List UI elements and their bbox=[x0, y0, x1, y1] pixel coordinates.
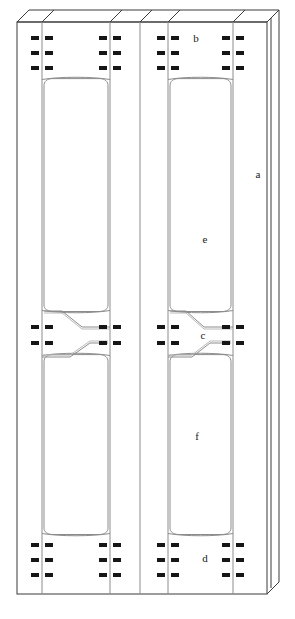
top-face-rib-3 bbox=[140, 10, 152, 22]
connector-mark bbox=[45, 66, 53, 70]
connector-mark bbox=[171, 543, 179, 547]
connector-mark bbox=[236, 573, 244, 577]
connector-mark bbox=[236, 66, 244, 70]
connector-mark bbox=[45, 325, 53, 329]
callout-label-e: e bbox=[203, 233, 208, 245]
connector-mark bbox=[113, 51, 121, 55]
connector-mark bbox=[236, 325, 244, 329]
connector-mark bbox=[99, 573, 107, 577]
connector-mark bbox=[45, 573, 53, 577]
connector-mark bbox=[236, 558, 244, 562]
connector-mark bbox=[31, 36, 39, 40]
connector-mark bbox=[99, 66, 107, 70]
connector-mark bbox=[31, 325, 39, 329]
front-face-outline bbox=[17, 22, 267, 594]
connector-mark bbox=[222, 51, 230, 55]
left-lower-panel-outline bbox=[44, 355, 108, 535]
connector-mark bbox=[171, 341, 179, 345]
callout-label-d: d bbox=[202, 552, 208, 564]
connector-mark bbox=[171, 66, 179, 70]
connector-mark bbox=[31, 543, 39, 547]
right-bay-lower-panel-group bbox=[168, 353, 233, 536]
technical-diagram-root: a b c d e f bbox=[0, 0, 295, 619]
connector-mark bbox=[113, 325, 121, 329]
connector-band-lower bbox=[31, 543, 244, 577]
connector-mark bbox=[45, 51, 53, 55]
callout-label-a: a bbox=[256, 168, 261, 180]
connector-mark bbox=[31, 66, 39, 70]
top-face-group bbox=[17, 10, 279, 22]
connector-mark bbox=[113, 543, 121, 547]
connector-mark bbox=[222, 36, 230, 40]
connector-mark bbox=[157, 66, 165, 70]
connector-mark bbox=[236, 543, 244, 547]
connector-mark bbox=[99, 325, 107, 329]
connector-mark bbox=[113, 573, 121, 577]
connector-mark bbox=[222, 543, 230, 547]
connector-mark bbox=[99, 558, 107, 562]
right-bay-upper-panel-group bbox=[168, 77, 233, 313]
vertical-rails-group bbox=[42, 22, 233, 594]
left-bay-lower-panel-group bbox=[42, 353, 110, 536]
right-upper-panel-outline bbox=[170, 79, 231, 312]
right-lower-panel-outline bbox=[170, 355, 231, 535]
connector-mark bbox=[113, 66, 121, 70]
right-side-face-group bbox=[267, 10, 279, 594]
connector-mark bbox=[157, 341, 165, 345]
connector-mark bbox=[236, 36, 244, 40]
connector-mark bbox=[113, 36, 121, 40]
side-face-bottom-diag bbox=[267, 582, 279, 594]
connector-mark bbox=[31, 573, 39, 577]
connector-mark bbox=[171, 51, 179, 55]
connector-mark bbox=[157, 543, 165, 547]
connector-mark bbox=[113, 558, 121, 562]
connector-mark bbox=[222, 558, 230, 562]
connector-band-upper bbox=[31, 36, 244, 70]
front-face-group bbox=[17, 22, 267, 594]
connector-mark bbox=[157, 51, 165, 55]
callout-label-f: f bbox=[195, 430, 199, 442]
connector-mark bbox=[157, 36, 165, 40]
callout-label-c: c bbox=[201, 329, 206, 341]
connector-mark bbox=[113, 341, 121, 345]
connector-mark bbox=[236, 341, 244, 345]
connector-mark bbox=[222, 325, 230, 329]
connector-mark bbox=[31, 558, 39, 562]
connector-mark bbox=[157, 558, 165, 562]
connector-band-mid bbox=[31, 325, 244, 345]
top-face-rib-5 bbox=[233, 10, 245, 22]
connector-mark bbox=[171, 573, 179, 577]
connector-mark bbox=[222, 573, 230, 577]
connector-mark bbox=[45, 543, 53, 547]
connector-mark bbox=[171, 325, 179, 329]
connector-mark bbox=[45, 341, 53, 345]
connector-mark bbox=[99, 543, 107, 547]
connector-mark bbox=[45, 36, 53, 40]
connector-mark bbox=[31, 51, 39, 55]
top-face-rib-2 bbox=[110, 10, 122, 22]
top-face-rib-1 bbox=[42, 10, 54, 22]
connector-mark bbox=[222, 66, 230, 70]
left-upper-panel-outline bbox=[44, 79, 108, 312]
connector-mark bbox=[99, 36, 107, 40]
connector-mark bbox=[222, 341, 230, 345]
connector-mark bbox=[31, 341, 39, 345]
diagram-canvas: a b c d e f bbox=[0, 0, 295, 619]
connector-mark bbox=[171, 558, 179, 562]
callout-label-b: b bbox=[193, 32, 199, 44]
connector-mark bbox=[171, 36, 179, 40]
left-bay-upper-panel-group bbox=[42, 77, 110, 313]
connector-mark bbox=[157, 573, 165, 577]
callout-labels-group: a b c d e f bbox=[193, 32, 260, 564]
connector-mark bbox=[45, 558, 53, 562]
connector-mark bbox=[236, 51, 244, 55]
connector-mark bbox=[99, 51, 107, 55]
top-face-rib-4 bbox=[168, 10, 180, 22]
connector-mark bbox=[99, 341, 107, 345]
connector-mark bbox=[157, 325, 165, 329]
